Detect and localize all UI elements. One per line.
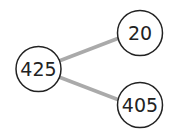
connector-whole-to-part-2 (59, 77, 119, 100)
part-node-2: 405 (118, 83, 163, 128)
part-1-label: 20 (128, 22, 152, 44)
number-bond-diagram: 425 20 405 (0, 0, 173, 136)
whole-node: 425 (16, 47, 61, 92)
part-2-label: 405 (122, 94, 158, 116)
part-node-1: 20 (118, 11, 163, 56)
connector-whole-to-part-1 (59, 38, 119, 61)
whole-label: 425 (20, 58, 56, 80)
